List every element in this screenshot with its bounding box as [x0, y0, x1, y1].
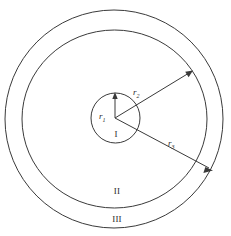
radius-arrowhead-r2	[185, 71, 193, 78]
radius-line-r3	[115, 118, 209, 168]
concentric-circles-diagram: r1 r2 r3 I II III	[0, 0, 231, 236]
region-label-2: II	[114, 186, 120, 196]
middle-circle	[22, 30, 207, 208]
radius-label-r3-sub: 3	[171, 144, 175, 150]
radius-label-r3: r3	[168, 138, 175, 150]
radius-label-r2: r2	[133, 87, 140, 99]
region-label-1: I	[114, 129, 117, 139]
radius-label-r1-sub: 1	[103, 117, 106, 123]
radius-label-r2-sub: 2	[137, 93, 140, 99]
region-label-3: III	[112, 214, 122, 224]
diagram-canvas: r1 r2 r3 I II III	[0, 0, 231, 236]
radius-label-r1: r1	[99, 111, 106, 123]
